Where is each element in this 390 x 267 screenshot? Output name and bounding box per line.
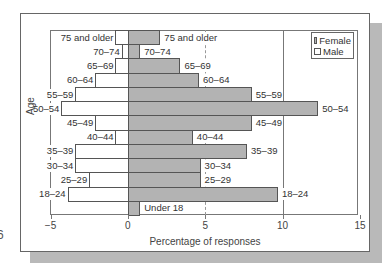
- x-tick-label: 10: [277, 220, 288, 231]
- x-tick: [360, 215, 361, 219]
- legend-item-female: Female: [314, 35, 351, 46]
- bar-label-right: 70–74: [143, 46, 171, 58]
- x-tick-label: −5: [45, 220, 56, 231]
- bar-male: [115, 30, 128, 45]
- bar-male: [75, 87, 129, 102]
- bar-female: [128, 87, 252, 102]
- bar-label-right: Under 18: [143, 202, 184, 214]
- female-swatch-icon: [314, 37, 317, 44]
- bar-male: [61, 101, 129, 116]
- bar-male: [115, 130, 128, 145]
- x-tick-label: 5: [202, 220, 208, 231]
- bar-label-left: 75 and older: [60, 32, 115, 44]
- page-number-fragment: 6: [0, 228, 4, 242]
- bar-female: [128, 201, 140, 216]
- legend-label-female: Female: [319, 35, 351, 46]
- bar-female: [128, 144, 247, 159]
- bar-label-left: 25–29: [60, 174, 88, 186]
- bar-label-left: 50–54: [32, 103, 60, 115]
- bar-label-left: 60–64: [66, 74, 94, 86]
- bar-male: [89, 172, 129, 187]
- bar-female: [128, 58, 181, 73]
- bar-label-right: 60–64: [202, 74, 230, 86]
- bar-label-right: 75 and older: [163, 32, 218, 44]
- bar-label-left: 30–34: [46, 160, 74, 172]
- x-axis-title: Percentage of responses: [130, 236, 280, 247]
- male-swatch-icon: [314, 48, 321, 55]
- bar-female: [128, 172, 201, 187]
- bar-male: [95, 115, 128, 130]
- bar-male: [95, 73, 128, 88]
- bar-female: [128, 73, 199, 88]
- bar-male: [68, 187, 129, 202]
- bar-female: [128, 158, 201, 173]
- x-tick: [128, 215, 129, 219]
- bar-label-left: 18–24: [38, 188, 66, 200]
- bar-label-right: 40–44: [196, 131, 224, 143]
- bar-label-right: 18–24: [281, 188, 309, 200]
- bar-male: [75, 158, 129, 173]
- bar-female: [128, 44, 140, 59]
- bar-female: [128, 130, 193, 145]
- bar-label-right: 50–54: [321, 103, 349, 115]
- x-tick: [283, 215, 284, 219]
- bar-label-left: 35–39: [46, 145, 74, 157]
- bar-male: [122, 44, 129, 59]
- bar-female: [128, 187, 278, 202]
- legend-label-male: Male: [323, 46, 344, 57]
- bar-label-right: 55–59: [255, 89, 283, 101]
- x-tick-label: 15: [354, 220, 365, 231]
- legend: Female Male: [311, 32, 354, 59]
- bar-label-right: 30–34: [204, 160, 232, 172]
- x-tick: [205, 215, 206, 219]
- bar-male: [115, 58, 128, 73]
- bar-label-left: 55–59: [46, 89, 74, 101]
- bar-label-left: 65–69: [86, 60, 114, 72]
- bar-label-left: 40–44: [86, 131, 114, 143]
- bar-female: [128, 30, 160, 45]
- legend-item-male: Male: [314, 46, 351, 57]
- bar-female: [128, 101, 318, 116]
- x-tick-label: 0: [125, 220, 131, 231]
- bar-label-right: 65–69: [183, 60, 211, 72]
- bar-label-left: 45–49: [66, 117, 94, 129]
- bar-male: [75, 144, 129, 159]
- x-tick: [51, 215, 52, 219]
- y-axis-title: Age: [25, 97, 36, 115]
- bar-female: [128, 115, 252, 130]
- bar-label-right: 35–39: [250, 145, 278, 157]
- bar-label-right: 45–49: [255, 117, 283, 129]
- bar-label-left: 70–74: [92, 46, 120, 58]
- bar-label-right: 25–29: [204, 174, 232, 186]
